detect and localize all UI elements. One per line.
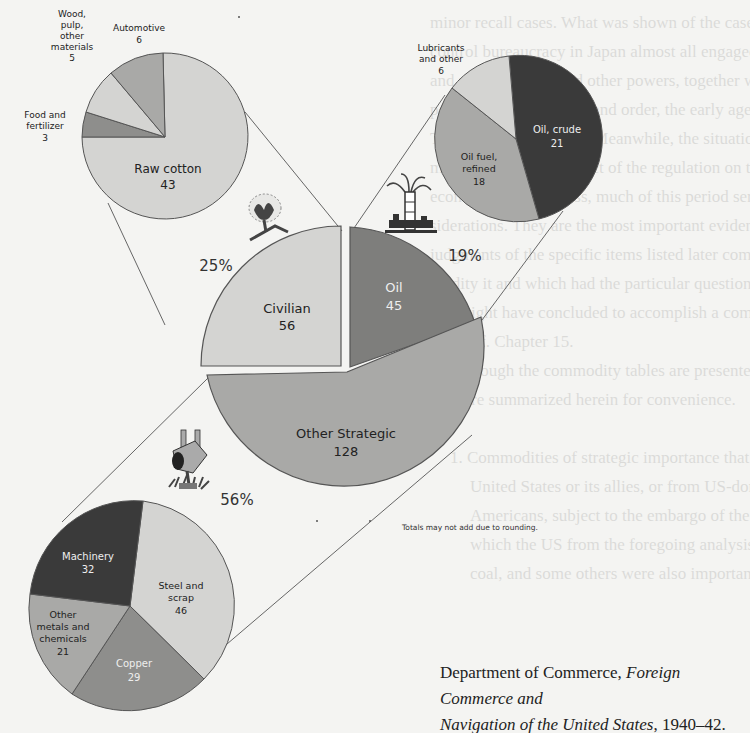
other-metals-value: 21 bbox=[57, 646, 69, 657]
machinery-label: Machinery bbox=[62, 551, 114, 562]
wood-label-4: materials bbox=[51, 42, 94, 52]
wood-label-1: Wood, bbox=[58, 9, 86, 19]
main-civilian-label: Civilian bbox=[263, 301, 310, 316]
lubricants-label-1: Lubricants bbox=[418, 43, 465, 53]
oil-refined-label-1: Oil fuel, bbox=[461, 151, 498, 162]
source-caption: Department of Commerce, Foreign Commerce… bbox=[440, 660, 750, 733]
caption-line1-plain: Department of Commerce, bbox=[440, 663, 626, 682]
pct-oil: 19% bbox=[448, 247, 481, 265]
main-oil-value: 45 bbox=[386, 298, 403, 313]
steel-value: 46 bbox=[175, 605, 187, 616]
steel-ladle-icon bbox=[169, 430, 209, 489]
pct-civilian: 25% bbox=[199, 257, 232, 275]
machinery-value: 32 bbox=[82, 564, 95, 575]
raw-cotton-value: 43 bbox=[160, 178, 175, 192]
oil-derrick-icon bbox=[385, 174, 437, 233]
wood-label-2: pulp, bbox=[61, 20, 84, 30]
rounding-note: Totals may not add due to rounding. bbox=[402, 523, 538, 532]
main-civilian-value: 56 bbox=[279, 318, 296, 333]
food-label-2: fertilizer bbox=[26, 121, 64, 131]
other-metals-label-3: chemicals bbox=[39, 633, 87, 644]
other-metals-label-2: metals and bbox=[36, 621, 89, 632]
main-oil-label: Oil bbox=[385, 280, 402, 295]
caption-line2-plain: , 1940–42. bbox=[653, 715, 725, 733]
raw-cotton-label: Raw cotton bbox=[134, 162, 201, 176]
oil-crude-label: Oil, crude bbox=[533, 124, 581, 135]
main-slice-civilian bbox=[201, 226, 341, 366]
copper-value: 29 bbox=[128, 672, 141, 683]
food-value: 3 bbox=[42, 133, 48, 143]
wood-value: 5 bbox=[69, 53, 75, 63]
lubricants-value: 6 bbox=[438, 66, 444, 76]
steel-label-2: scrap bbox=[168, 592, 194, 603]
oil-crude-value: 21 bbox=[551, 138, 564, 149]
lubricants-label-2: and other bbox=[419, 54, 463, 64]
automotive-label: Automotive bbox=[113, 23, 166, 33]
food-label-1: Food and bbox=[24, 110, 65, 120]
caption-line2-italic: Navigation of the United States bbox=[440, 715, 653, 733]
main-strategic-value: 128 bbox=[334, 444, 359, 459]
other-metals-label-1: Other bbox=[50, 609, 77, 620]
civilian-pie bbox=[82, 53, 248, 219]
pct-strategic: 56% bbox=[220, 491, 253, 509]
oil-pie bbox=[435, 55, 603, 221]
oil-refined-label-2: refined bbox=[462, 163, 495, 174]
oil-refined-value: 18 bbox=[473, 176, 485, 187]
cotton-boll-icon bbox=[249, 194, 288, 240]
wood-label-3: other bbox=[60, 31, 84, 41]
main-strategic-label: Other Strategic bbox=[296, 426, 396, 441]
steel-label-1: Steel and bbox=[159, 580, 204, 591]
pie-chart-figure: Civilian 56 Oil 45 Other Strategic 128 2… bbox=[0, 0, 750, 733]
copper-label: Copper bbox=[116, 658, 153, 669]
automotive-value: 6 bbox=[136, 35, 142, 45]
